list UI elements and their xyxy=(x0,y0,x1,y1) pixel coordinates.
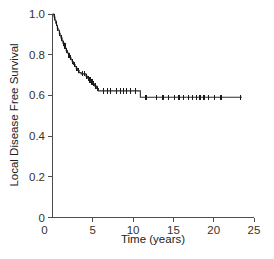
x-axis-ticks xyxy=(93,218,254,223)
x-tick-label: 25 xyxy=(248,224,261,236)
y-axis-title: Local Disease Free Survival xyxy=(8,43,20,186)
x-axis-title: Time (years) xyxy=(121,233,185,245)
y-tick-label: 0.4 xyxy=(29,130,46,142)
y-tick-label: 0.2 xyxy=(29,171,45,183)
censor-marks-group xyxy=(55,14,241,99)
y-tick-label: 0.8 xyxy=(29,49,45,61)
y-tick-label: 0.6 xyxy=(29,89,45,101)
survival-curve xyxy=(53,14,242,97)
x-tick-label: 0 xyxy=(41,224,47,236)
x-tick-label: 20 xyxy=(207,224,220,236)
x-tick-label: 5 xyxy=(90,224,96,236)
y-tick-label: 1.0 xyxy=(29,8,45,20)
y-axis-ticks xyxy=(48,14,53,218)
y-tick-label: 0 xyxy=(39,212,45,224)
survival-plot: 00.20.40.60.81.0 0510152025 Time (years)… xyxy=(0,0,274,259)
y-axis-tick-labels: 00.20.40.60.81.0 xyxy=(29,8,46,224)
kaplan-meier-figure: 00.20.40.60.81.0 0510152025 Time (years)… xyxy=(0,0,274,259)
axes-group xyxy=(53,14,255,218)
